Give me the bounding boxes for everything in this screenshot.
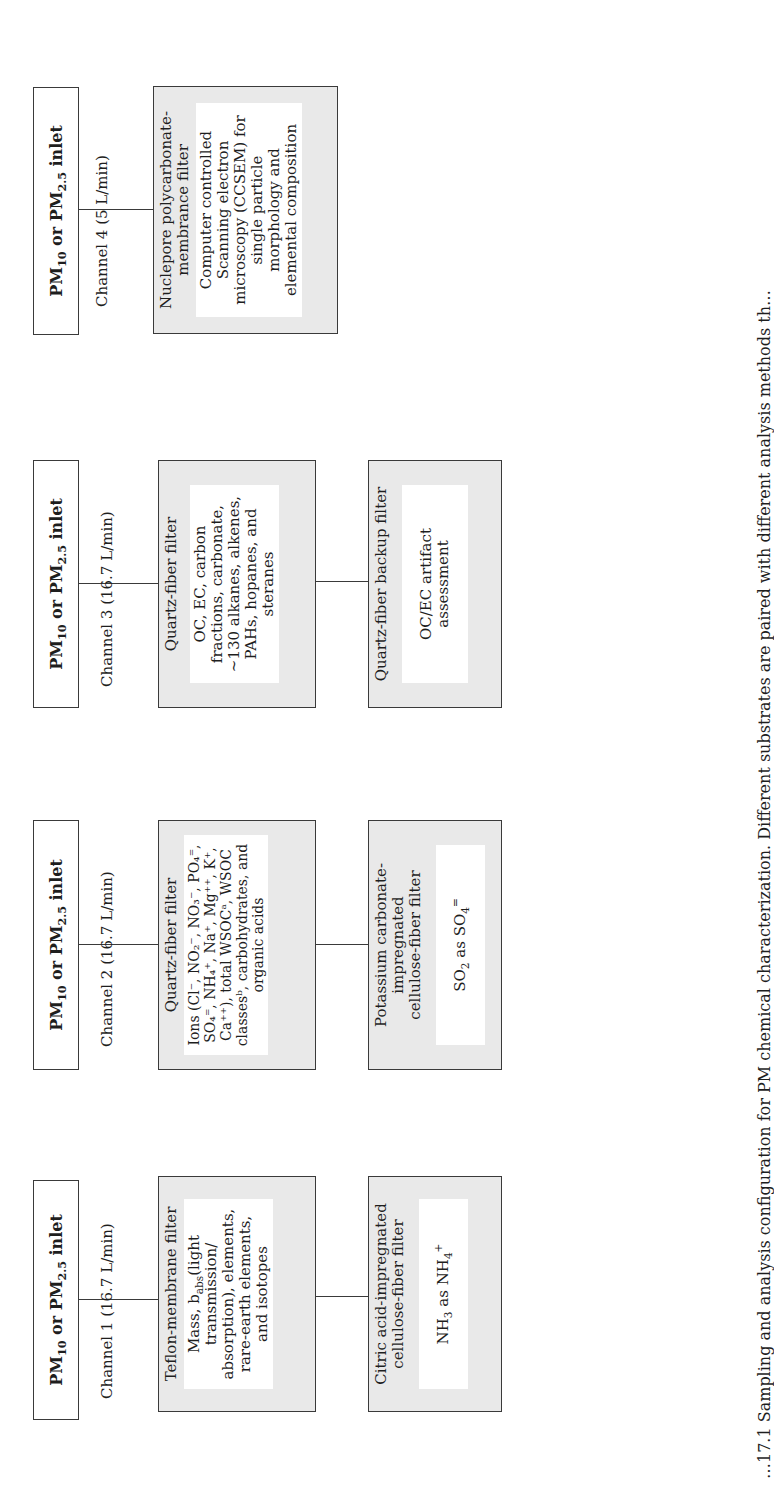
- channel-1-filter-box: Teflon-membrane filter Mass, babs(light …: [158, 1176, 316, 1412]
- filter-analysis: Computer controlled Scanning electron mi…: [196, 103, 302, 317]
- filter-title: Quartz-fiber filter: [163, 517, 180, 651]
- channel-1-label: Channel 1 (16.7 L/min): [98, 1223, 116, 1399]
- connector-line: [79, 583, 158, 584]
- connector-line: [79, 209, 153, 210]
- backup-title: Potassium carbonate-impregnated cellulos…: [373, 858, 424, 1032]
- channel-3-filter-box: Quartz-fiber filter OC, EC, carbon fract…: [158, 460, 316, 708]
- filter-analysis: OC, EC, carbon fractions, carbonate, ~13…: [190, 485, 279, 684]
- channel-2-backup-box: Potassium carbonate-impregnated cellulos…: [368, 820, 502, 1070]
- connector-line: [316, 581, 368, 582]
- channel-2-label: Channel 2 (16.7 L/min): [98, 871, 116, 1047]
- connector-line: [316, 944, 368, 945]
- connector-line: [79, 944, 158, 945]
- backup-analysis: SO2 as SO4=: [436, 845, 485, 1045]
- rotated-figure: PM10 or PM2.5 inlet Channel 1 (16.7 L/mi…: [0, 0, 782, 1487]
- channel-1-backup-box: Citric acid-impregnated cellulose-fiber …: [368, 1176, 502, 1412]
- channel-2-filter-box: Quartz-fiber filter Ions (Cl⁻, NO₂⁻, NO₃…: [158, 820, 316, 1070]
- connector-line: [316, 1296, 368, 1297]
- backup-analysis: NH3 as NH4+: [419, 1199, 468, 1389]
- backup-title: Quartz-fiber backup filter: [373, 487, 390, 681]
- filter-title: Quartz-fiber filter: [163, 878, 180, 1012]
- channel-3-label: Channel 3 (16.7 L/min): [98, 511, 116, 687]
- channel-1-inlet-box: PM10 or PM2.5 inlet: [33, 1180, 79, 1420]
- backup-title: Citric acid-impregnated cellulose-fiber …: [373, 1177, 407, 1411]
- channel-3-inlet-box: PM10 or PM2.5 inlet: [33, 460, 79, 708]
- connector-line: [79, 1299, 158, 1300]
- filter-analysis: Mass, babs(light transmission/ absorptio…: [184, 1199, 273, 1389]
- inlet-label: PM10 or PM2.5 inlet: [47, 1214, 66, 1386]
- channel-4-label: Channel 4 (5 L/min): [93, 155, 111, 307]
- channel-3-backup-box: Quartz-fiber backup filter OC/EC artifac…: [368, 460, 502, 708]
- channel-4-inlet-box: PM10 or PM2.5 inlet: [33, 87, 79, 335]
- backup-analysis: OC/EC artifact assessment: [402, 485, 468, 684]
- inlet-label: PM10 or PM2.5 inlet: [47, 125, 66, 297]
- filter-analysis: Ions (Cl⁻, NO₂⁻, NO₃⁻, PO₄⁼, SO₄⁼, NH₄⁺,…: [184, 835, 268, 1055]
- filter-title: Teflon-membrane filter: [163, 1207, 180, 1382]
- figure-caption: …17.1 Sampling and analysis configuratio…: [755, 0, 774, 1479]
- channel-4-filter-box: Nuclepore polycarbonate-membrance filter…: [153, 86, 338, 334]
- channel-2-inlet-box: PM10 or PM2.5 inlet: [33, 820, 79, 1070]
- inlet-label: PM10 or PM2.5 inlet: [47, 498, 66, 670]
- filter-title: Nuclepore polycarbonate-membrance filter: [158, 87, 192, 333]
- inlet-label: PM10 or PM2.5 inlet: [47, 859, 66, 1031]
